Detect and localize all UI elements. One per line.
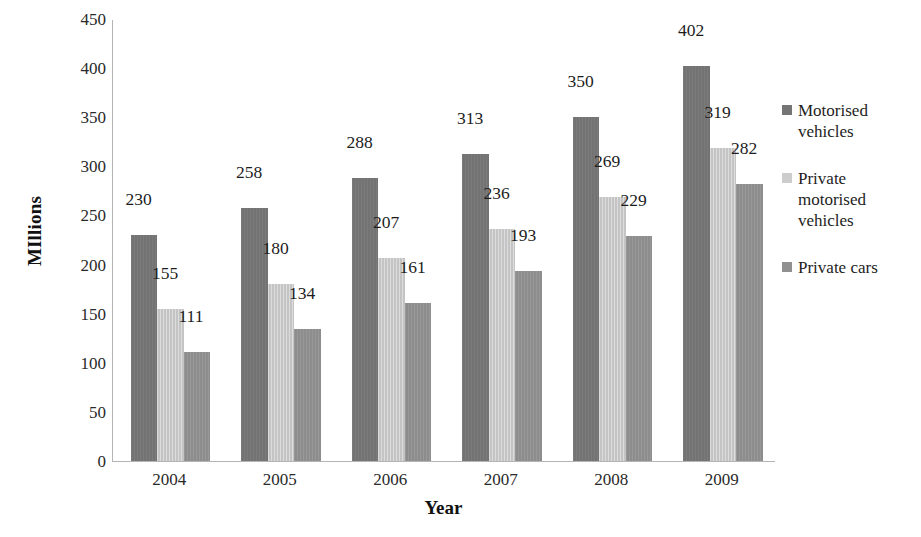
bar-value-label: 350 [568, 71, 594, 94]
bar[interactable] [683, 66, 710, 461]
bar-value-label: 319 [705, 102, 731, 125]
legend-item[interactable]: Private motorised vehicles [782, 168, 918, 231]
bar-value-label: 236 [484, 183, 510, 206]
bar[interactable] [599, 197, 626, 461]
bar-value-label: 313 [457, 108, 483, 131]
bar-value-label: 269 [594, 151, 620, 174]
bar-value-label: 155 [152, 263, 178, 286]
bar-value-label: 229 [621, 190, 647, 213]
legend-swatch-icon [782, 262, 792, 272]
x-axis-tick: 2009 [705, 470, 739, 490]
y-axis-title-text: MIllions [24, 196, 46, 266]
legend-item[interactable]: Private cars [782, 257, 918, 278]
y-axis-tick: 100 [62, 354, 106, 374]
bar[interactable] [184, 352, 211, 461]
x-axis-tick: 2005 [263, 470, 297, 490]
x-axis-tick: 2004 [152, 470, 186, 490]
y-axis-tick: 450 [62, 10, 106, 30]
y-axis-tick: 350 [62, 108, 106, 128]
y-axis-title: MIllions [18, 0, 52, 462]
bar-value-label: 402 [678, 20, 704, 43]
bar-value-label: 193 [510, 225, 536, 248]
y-axis-tick-labels: 450400350300250200150100500 [58, 0, 106, 537]
legend-label: Private cars [798, 257, 878, 278]
legend-swatch-icon [782, 173, 792, 183]
bar-chart: MIllions 450400350300250200150100500 230… [0, 0, 921, 537]
bar-value-label: 161 [400, 257, 426, 280]
y-axis-tick: 250 [62, 206, 106, 226]
bar[interactable] [489, 229, 516, 461]
legend-item[interactable]: Motorised vehicles [782, 100, 918, 142]
bars-layer: 2301551112581801342882071613132361933502… [113, 20, 775, 461]
x-axis-tick: 2006 [373, 470, 407, 490]
bar-group: 402319282 [683, 20, 763, 461]
legend-label: Private motorised vehicles [798, 168, 918, 231]
bar-group: 350269229 [573, 20, 653, 461]
bar[interactable] [710, 148, 737, 461]
bar-value-label: 258 [236, 162, 262, 185]
bar[interactable] [736, 184, 763, 461]
bar[interactable] [157, 309, 184, 461]
bar-value-label: 288 [347, 132, 373, 155]
bar-value-label: 180 [263, 238, 289, 261]
plot-area: 2301551112581801342882071613132361933502… [112, 20, 775, 462]
bar[interactable] [626, 236, 653, 461]
y-axis-tick: 300 [62, 157, 106, 177]
y-axis-tick: 400 [62, 59, 106, 79]
x-axis-title: Year [112, 497, 775, 519]
bar[interactable] [515, 271, 542, 461]
bar-group: 230155111 [131, 20, 211, 461]
x-axis-tick: 2007 [484, 470, 518, 490]
y-axis-tick: 50 [62, 403, 106, 423]
x-axis-tick: 2008 [594, 470, 628, 490]
bar-group: 288207161 [352, 20, 432, 461]
bar-group: 313236193 [462, 20, 542, 461]
bar[interactable] [405, 303, 432, 461]
legend-label: Motorised vehicles [798, 100, 918, 142]
bar[interactable] [378, 258, 405, 461]
bar[interactable] [294, 329, 321, 461]
bar-value-label: 282 [731, 138, 757, 161]
y-axis-tick: 0 [62, 452, 106, 472]
bar-value-label: 230 [126, 189, 152, 212]
bar-value-label: 111 [179, 306, 204, 329]
bar-value-label: 207 [373, 212, 399, 235]
bar-group: 258180134 [241, 20, 321, 461]
bar[interactable] [268, 284, 295, 461]
legend-swatch-icon [782, 105, 792, 115]
bar-value-label: 134 [289, 283, 315, 306]
y-axis-tick: 150 [62, 305, 106, 325]
chart-legend: Motorised vehiclesPrivate motorised vehi… [782, 100, 918, 304]
y-axis-tick: 200 [62, 256, 106, 276]
